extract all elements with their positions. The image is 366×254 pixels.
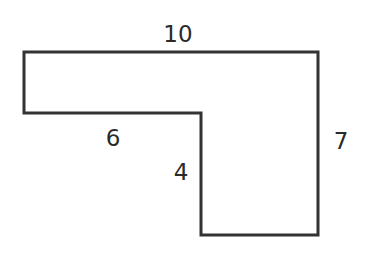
l-shape-diagram: 10 6 4 7 xyxy=(0,0,366,254)
inner-horizontal-side-length-label: 6 xyxy=(106,125,121,151)
top-side-length-label: 10 xyxy=(163,21,192,47)
l-shaped-figure xyxy=(24,52,318,235)
inner-vertical-side-length-label: 4 xyxy=(174,159,189,185)
right-side-length-label: 7 xyxy=(334,128,349,154)
